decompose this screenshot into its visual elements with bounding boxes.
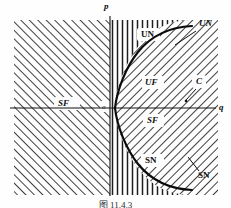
region-label-un-inner: UN: [141, 30, 154, 39]
diagram-canvas: [0, 0, 231, 208]
axis-label-p: p: [104, 2, 109, 11]
callout-label-un-outer: UN: [199, 19, 212, 28]
region-label-sf-inner: SF: [147, 116, 158, 125]
callout-label-c: C: [196, 77, 202, 86]
region-label-uf-inner: UF: [145, 78, 158, 87]
figure-caption: 图 11.4.3: [0, 198, 231, 208]
callout-label-sn-outer: SN: [198, 171, 210, 180]
axis-label-q: q: [219, 103, 224, 112]
origin-label-o: o: [102, 104, 106, 111]
figure-bifurcation-diagram: p q o SF UN UF SF SN UN C SN 图 11.4.3: [0, 0, 231, 208]
region-label-sf-left: SF: [58, 99, 69, 108]
region-label-sn-inner: SN: [145, 156, 157, 165]
